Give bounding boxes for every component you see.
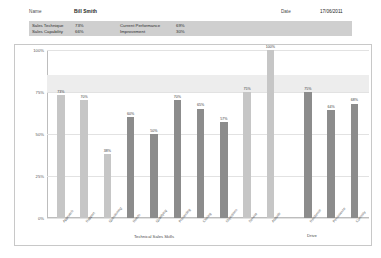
y-axis-tick: 25% (36, 174, 44, 179)
bar[interactable] (57, 95, 65, 218)
report-header: Name Bill Smith Date 17/06/2011 Sales Te… (0, 0, 381, 40)
name-value: Bill Smith (74, 9, 97, 14)
summary-value-improvement: 30% (176, 29, 185, 35)
bar[interactable] (243, 92, 251, 218)
bar-value-label: 60% (127, 112, 134, 116)
bar-value-label: 70% (80, 95, 87, 99)
bar[interactable] (197, 109, 205, 218)
bar[interactable] (304, 92, 312, 218)
bar-slot[interactable]: 64% (327, 50, 335, 218)
header-identity-row: Name Bill Smith Date 17/06/2011 (0, 9, 381, 19)
y-axis-tick: 0% (38, 216, 44, 221)
date-value: 17/06/2011 (320, 9, 343, 14)
bar-slot[interactable]: 75% (304, 50, 312, 218)
x-axis-title-main: Technical Sales Skills (134, 234, 174, 239)
summary-value-sales-capability: 66% (75, 29, 84, 35)
y-axis-tick: 75% (36, 90, 44, 95)
summary-label-improvement: Improvement (120, 29, 145, 35)
bar-value-label: 75% (304, 87, 311, 91)
bar-slot[interactable]: 65% (197, 50, 205, 218)
chart-frame: 0%25%50%75%100% 73%70%38%60%50%70%65%57%… (14, 44, 372, 246)
bar[interactable] (267, 50, 275, 218)
bar-value-label: 50% (150, 129, 157, 133)
bar-value-label: 70% (174, 95, 181, 99)
bar-value-label: 73% (57, 90, 64, 94)
bar-value-label: 57% (220, 117, 227, 121)
bar-slot[interactable]: 57% (220, 50, 228, 218)
bar-slot[interactable]: 70% (174, 50, 182, 218)
summary-label-sales-capability: Sales Capability (32, 29, 63, 35)
bar[interactable] (80, 100, 88, 218)
y-axis-tick: 100% (33, 48, 44, 53)
x-axis-title-secondary: Drive (307, 233, 317, 238)
bar[interactable] (127, 117, 135, 218)
bar-slot[interactable]: 100% (267, 50, 275, 218)
bar-slot[interactable]: 73% (57, 50, 65, 218)
date-label: Date (281, 9, 291, 14)
bar-value-label: 65% (197, 103, 204, 107)
bar-slot[interactable]: 50% (150, 50, 158, 218)
y-axis-tick: 50% (36, 132, 44, 137)
bar-slot[interactable]: 60% (127, 50, 135, 218)
bar-slot[interactable]: 68% (351, 50, 359, 218)
bar-slot[interactable]: 70% (80, 50, 88, 218)
bar-value-label: 75% (244, 87, 251, 91)
bar[interactable] (327, 110, 335, 218)
bar-value-label: 100% (266, 45, 275, 49)
bar-value-label: 64% (327, 105, 334, 109)
name-label: Name (29, 9, 42, 14)
bar-series: 73%70%38%60%50%70%65%57%75%100%75%64%68% (47, 50, 369, 218)
bar[interactable] (174, 100, 182, 218)
bar[interactable] (150, 134, 158, 218)
bar[interactable] (220, 122, 228, 218)
bar-value-label: 68% (351, 98, 358, 102)
chart-plot-area: 0%25%50%75%100% 73%70%38%60%50%70%65%57%… (47, 50, 369, 218)
bar-slot[interactable]: 75% (243, 50, 251, 218)
bar[interactable] (104, 154, 112, 218)
bar-slot[interactable]: 38% (104, 50, 112, 218)
bar-value-label: 38% (104, 149, 111, 153)
bar[interactable] (351, 104, 359, 218)
summary-band: Sales Technique 73% Sales Capability 66%… (29, 21, 352, 36)
